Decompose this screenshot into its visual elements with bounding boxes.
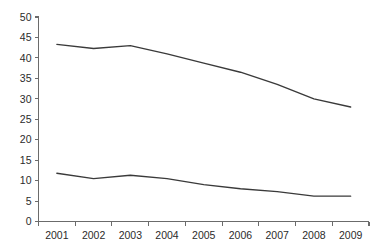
x-tick-label: 2001 [45, 229, 69, 241]
y-tick-label: 5 [26, 195, 32, 207]
x-tick-label: 2006 [229, 229, 253, 241]
x-tick-label: 2003 [119, 229, 143, 241]
y-tick-label: 45 [20, 31, 32, 43]
y-tick-label: 50 [20, 11, 32, 23]
x-axis-tick-labels: 200120022003200420052006200720082009 [45, 229, 362, 241]
x-tick-label: 2002 [82, 229, 106, 241]
y-tick-label: 15 [20, 154, 32, 166]
chart-canvas: 05101520253035404550 2001200220032004200… [0, 0, 382, 251]
y-tick-label: 40 [20, 52, 32, 64]
x-tick-label: 2007 [266, 229, 290, 241]
y-tick-label: 35 [20, 72, 32, 84]
y-tick-label: 25 [20, 113, 32, 125]
chart-background [0, 0, 382, 251]
line-chart: 05101520253035404550 2001200220032004200… [0, 0, 382, 251]
x-tick-label: 2005 [192, 229, 216, 241]
y-tick-label: 0 [26, 215, 32, 227]
y-tick-label: 30 [20, 93, 32, 105]
x-tick-label: 2008 [302, 229, 326, 241]
x-tick-label: 2009 [339, 229, 363, 241]
y-tick-label: 10 [20, 174, 32, 186]
y-tick-label: 20 [20, 133, 32, 145]
x-tick-label: 2004 [155, 229, 179, 241]
